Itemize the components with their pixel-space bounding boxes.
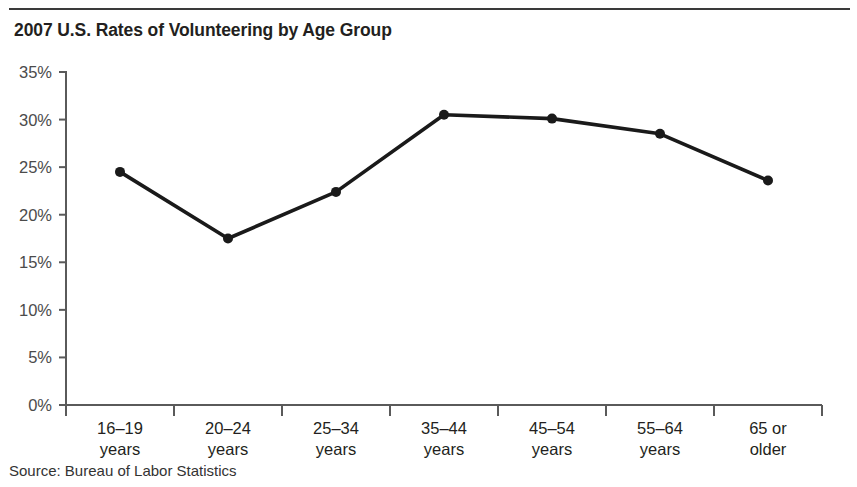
- x-axis-tick-label: 25–34years: [282, 418, 390, 460]
- x-axis-tick-label: 35–44years: [390, 418, 498, 460]
- y-axis-tick-label: 10%: [0, 300, 52, 319]
- x-axis-tick-label-line: years: [66, 439, 174, 460]
- source-note: Source: Bureau of Labor Statistics: [9, 462, 237, 479]
- y-axis-tick-label: 25%: [0, 158, 52, 177]
- x-axis-tick-label-line: 35–44: [390, 418, 498, 439]
- data-point-marker: 55–64 years: 28.5%: [655, 129, 665, 139]
- y-axis-tick-label: 30%: [0, 110, 52, 129]
- y-axis-tick-label: 35%: [0, 63, 52, 82]
- line-chart-plot: 16–19 years: 24.5%20–24 years: 17.5%25–3…: [0, 0, 857, 487]
- x-axis-tick-label-line: years: [606, 439, 714, 460]
- data-series-line: [120, 115, 768, 239]
- x-axis-tick-label: 55–64years: [606, 418, 714, 460]
- y-axis-tick-label: 0%: [0, 396, 52, 415]
- y-axis-tick-label: 15%: [0, 253, 52, 272]
- data-point-marker: 25–34 years: 22.4%: [331, 187, 341, 197]
- x-axis-tick-label-line: years: [174, 439, 282, 460]
- x-axis-tick-label-line: 55–64: [606, 418, 714, 439]
- x-axis-tick-label: 16–19years: [66, 418, 174, 460]
- y-axis-tick-label: 5%: [0, 348, 52, 367]
- data-point-marker: 65 or older: 23.6%: [763, 176, 773, 186]
- x-axis-tick-label-line: years: [390, 439, 498, 460]
- y-axis-tick-label: 20%: [0, 205, 52, 224]
- x-axis-tick-label-line: 45–54: [498, 418, 606, 439]
- x-axis-tick-label-line: 20–24: [174, 418, 282, 439]
- x-axis-tick-label-line: years: [498, 439, 606, 460]
- x-axis-tick-label-line: 25–34: [282, 418, 390, 439]
- data-point-marker: 45–54 years: 30.1%: [547, 114, 557, 124]
- data-point-marker: 20–24 years: 17.5%: [223, 234, 233, 244]
- x-axis-tick-label: 45–54years: [498, 418, 606, 460]
- x-axis-tick-label-line: 65 or: [714, 418, 822, 439]
- data-point-marker: 16–19 years: 24.5%: [115, 167, 125, 177]
- data-point-marker: 35–44 years: 30.5%: [439, 110, 449, 120]
- x-axis-tick-label: 65 orolder: [714, 418, 822, 460]
- x-axis-tick-label: 20–24years: [174, 418, 282, 460]
- x-axis-tick-label-line: years: [282, 439, 390, 460]
- x-axis-tick-label-line: older: [714, 439, 822, 460]
- x-axis-tick-label-line: 16–19: [66, 418, 174, 439]
- chart-figure: 2007 U.S. Rates of Volunteering by Age G…: [0, 0, 857, 487]
